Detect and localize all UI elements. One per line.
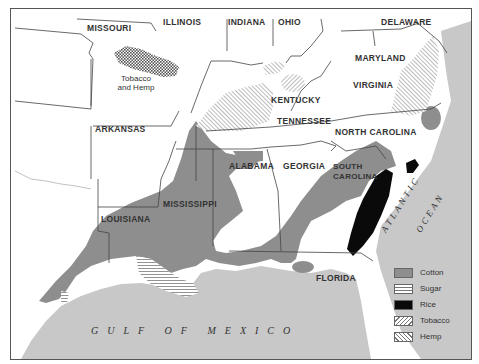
- legend-label-hemp: Hemp: [420, 332, 441, 342]
- tobacco-region-ky-tn: [196, 83, 273, 131]
- legend-item-rice: Rice: [394, 300, 472, 311]
- map-frame: MISSOURI ILLINOIS INDIANA OHIO DELAWARE …: [10, 8, 472, 360]
- state-label-south-carolina: SOUTH CAROLINA: [333, 162, 378, 183]
- tobacco-hemp-annotation: Tobacco and Hemp: [111, 74, 161, 92]
- legend-label-tobacco: Tobacco: [420, 316, 450, 326]
- state-label-ohio: OHIO: [278, 18, 301, 27]
- river: [15, 171, 91, 189]
- state-label-tennessee: TENNESSEE: [277, 117, 331, 126]
- state-label-indiana: INDIANA: [228, 18, 266, 27]
- state-label-georgia: GEORGIA: [283, 162, 325, 171]
- tobacco-swatch: [394, 316, 413, 326]
- hemp-region-ky: [281, 74, 305, 92]
- state-label-north-carolina: NORTH CAROLINA: [335, 128, 417, 137]
- state-label-delaware: DELAWARE: [381, 18, 432, 27]
- south-carolina-line1: SOUTH: [333, 162, 378, 172]
- tobacco-hemp-region-mo: [114, 46, 179, 77]
- legend-label-sugar: Sugar: [420, 284, 441, 294]
- state-label-alabama: ALABAMA: [229, 162, 274, 171]
- legend-item-hemp: Hemp: [394, 332, 472, 343]
- cotton-florida-spot: [292, 261, 314, 273]
- tobacco-hemp-line2: and Hemp: [111, 83, 161, 92]
- state-label-illinois: ILLINOIS: [163, 18, 201, 27]
- tobacco-hemp-line1: Tobacco: [111, 74, 161, 83]
- cotton-swatch: [394, 268, 413, 278]
- state-label-virginia: VIRGINIA: [353, 81, 393, 90]
- state-label-maryland: MARYLAND: [355, 54, 406, 63]
- legend-item-sugar: Sugar: [394, 284, 472, 295]
- legend-label-cotton: Cotton: [420, 268, 444, 278]
- tobacco-region-ky-north: [263, 61, 286, 75]
- state-label-mississippi: MISSISSIPPI: [163, 200, 217, 209]
- south-carolina-line2: CAROLINA: [333, 172, 378, 182]
- state-label-louisiana: LOUISIANA: [101, 215, 150, 224]
- gulf-of-mexico-label: GULF OF MEXICO: [91, 325, 299, 336]
- legend-label-rice: Rice: [420, 300, 436, 310]
- hemp-swatch: [394, 332, 413, 342]
- rice-swatch: [394, 300, 413, 310]
- state-label-arkansas: ARKANSAS: [95, 125, 146, 134]
- state-label-kentucky: KENTUCKY: [271, 96, 321, 105]
- sugar-region-west: [61, 291, 69, 304]
- legend-item-tobacco: Tobacco: [394, 316, 472, 327]
- legend-item-cotton: Cotton: [394, 268, 472, 279]
- state-label-missouri: MISSOURI: [87, 24, 131, 33]
- state-label-florida: FLORIDA: [316, 274, 356, 283]
- sugar-swatch: [394, 284, 413, 294]
- rice-region-nc: [406, 159, 419, 173]
- tobacco-region-virginia: [391, 36, 439, 116]
